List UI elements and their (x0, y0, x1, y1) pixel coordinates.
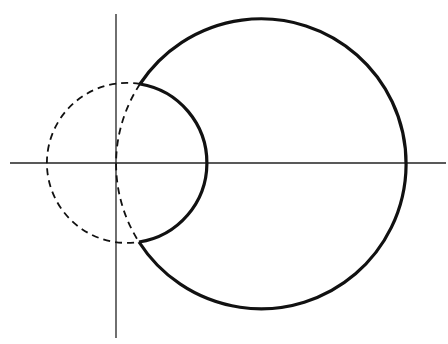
diagram-canvas (0, 0, 448, 344)
circles-diagram (0, 0, 448, 344)
large-circle-solid-arc (139, 19, 406, 309)
